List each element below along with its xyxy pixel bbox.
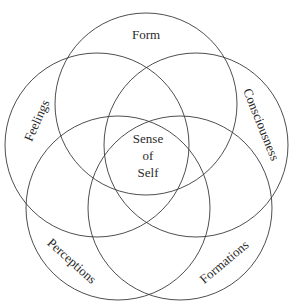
circle-formations [88, 116, 272, 300]
circle-consciousness [104, 53, 288, 237]
circle-perceptions [26, 116, 210, 300]
center-label-sense-of-self: Sense of Self [133, 131, 164, 180]
five-aggregates-venn-diagram: Form Feelings Consciousness Perceptions … [0, 0, 295, 307]
label-formations: Formations [197, 237, 252, 287]
label-consciousness: Consciousness [240, 86, 283, 163]
center-line-sense: Sense [133, 131, 164, 146]
center-line-of: of [143, 148, 155, 163]
label-form: Form [132, 27, 160, 42]
label-perceptions: Perceptions [44, 235, 99, 287]
label-feelings: Feelings [21, 97, 53, 143]
center-line-self: Self [138, 165, 160, 180]
